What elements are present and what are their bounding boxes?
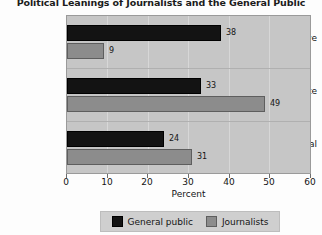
bar-conservative-journalists	[67, 43, 104, 59]
xtick-label-20: 20	[135, 177, 159, 187]
bar-value-moderate-general-public: 33	[206, 78, 216, 94]
bar-conservative-general-public	[67, 25, 221, 41]
xtick-label-60: 60	[298, 177, 322, 187]
bar-liberal-general-public	[67, 131, 164, 147]
x-axis-title: Percent	[66, 189, 311, 199]
legend-item-journalists: Journalists	[206, 216, 269, 227]
chart-legend: General public Journalists	[100, 211, 280, 232]
bar-value-liberal-journalists: 31	[197, 149, 207, 165]
xtick-label-0: 0	[54, 177, 78, 187]
legend-label-general-public: General public	[128, 217, 193, 227]
bar-moderate-general-public	[67, 78, 201, 94]
legend-swatch-general-public	[112, 216, 123, 227]
plot-area: 38 9 33 49 24 31	[66, 15, 311, 174]
group-separator-1	[67, 68, 310, 69]
legend-label-journalists: Journalists	[222, 217, 269, 227]
bar-value-liberal-general-public: 24	[169, 131, 179, 147]
bar-moderate-journalists	[67, 96, 265, 112]
xtick-label-50: 50	[257, 177, 281, 187]
legend-item-general-public: General public	[112, 216, 193, 227]
xtick-label-40: 40	[217, 177, 241, 187]
chart-title: Political Leanings of Journalists and th…	[0, 0, 322, 8]
legend-swatch-journalists	[206, 216, 217, 227]
bar-value-conservative-journalists: 9	[109, 43, 114, 59]
bar-value-moderate-journalists: 49	[270, 96, 280, 112]
bar-liberal-journalists	[67, 149, 192, 165]
xtick-label-30: 30	[176, 177, 200, 187]
group-separator-2	[67, 121, 310, 122]
gridline-50	[269, 16, 270, 173]
bar-value-conservative-general-public: 38	[226, 25, 236, 41]
xtick-label-10: 10	[95, 177, 119, 187]
